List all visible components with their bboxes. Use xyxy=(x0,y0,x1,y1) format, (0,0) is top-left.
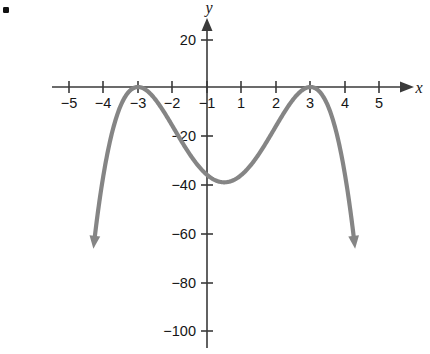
x-axis-tick-labels: −5 −4 −3 −2 −1 1 2 3 4 5 xyxy=(61,95,383,111)
x-tick-label: 3 xyxy=(306,95,314,111)
curve-left-arrow-icon xyxy=(90,235,101,249)
bullet-marker-icon xyxy=(3,7,9,13)
x-tick-label: 2 xyxy=(272,95,280,111)
graph-figure: x y −5 −4 −3 −2 −1 1 2 3 4 5 xyxy=(0,0,430,354)
x-tick-label: −1 xyxy=(199,95,216,111)
x-tick-label: −5 xyxy=(61,95,78,111)
x-tick-label: 4 xyxy=(341,95,349,111)
y-tick-label: −60 xyxy=(171,226,196,242)
y-tick-label: 20 xyxy=(180,32,196,48)
x-axis-label: x xyxy=(414,79,422,96)
x-tick-label: 5 xyxy=(375,95,383,111)
y-axis-tick-labels: 20 −20 −40 −60 −80 −100 xyxy=(163,32,196,339)
curve-right-arrow-icon xyxy=(348,235,359,249)
x-tick-label: −4 xyxy=(95,95,112,111)
x-tick-label: −2 xyxy=(164,95,181,111)
x-tick-label: 1 xyxy=(237,95,245,111)
x-axis: x xyxy=(52,79,423,96)
curve-group xyxy=(90,87,359,249)
y-tick-label: −40 xyxy=(171,177,196,193)
y-axis-label: y xyxy=(203,0,213,17)
x-tick-label: −3 xyxy=(130,95,147,111)
y-tick-label: −100 xyxy=(163,323,196,339)
y-axis-arrow-icon xyxy=(202,18,213,31)
x-axis-arrow-icon xyxy=(400,82,414,93)
y-tick-label: −80 xyxy=(171,275,196,291)
